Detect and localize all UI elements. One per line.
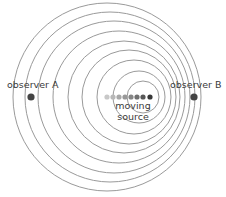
source-label-line1: moving	[110, 101, 156, 111]
source-position-dot	[128, 94, 133, 99]
doppler-diagram	[0, 0, 226, 197]
source-position-dot	[134, 94, 139, 99]
source-position-dot	[147, 94, 152, 99]
source-position-dot	[110, 94, 115, 99]
observer-b-dot	[190, 93, 197, 100]
observer-a-label: observer A	[7, 80, 58, 90]
observer-b-label: observer B	[170, 80, 221, 90]
source-label-line2: source	[110, 112, 156, 122]
observer-a-dot	[27, 93, 34, 100]
wavefront-circle	[25, 12, 195, 182]
source-position-dot	[140, 94, 145, 99]
source-position-dot	[116, 94, 121, 99]
source-position-dot	[104, 94, 109, 99]
source-position-dot	[122, 94, 127, 99]
moving-source-label: moving source	[110, 101, 156, 121]
source-positions	[104, 94, 152, 99]
